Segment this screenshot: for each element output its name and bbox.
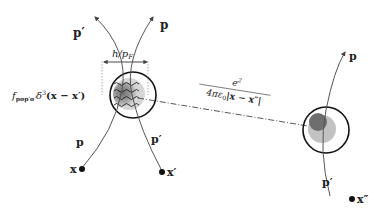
label-p-prime-bottom: p′ (151, 133, 162, 146)
label-x: x (70, 163, 77, 176)
label-exchange-term: fpσp′σ′δ3(x − x′) (11, 89, 85, 103)
label-x-prime: x′ (167, 166, 177, 179)
coulomb-denominator: 4πε0|x − x″| (204, 87, 261, 107)
label-p-prime-right: p′ (322, 176, 333, 189)
label-p-prime-top: p′ (73, 26, 85, 40)
label-p-bottom-left: p (76, 136, 84, 149)
label-x-double-prime: x″ (357, 193, 369, 206)
label-p-top: p (160, 18, 168, 32)
x-double-prime-dot (349, 196, 355, 202)
coulomb-numerator: e2 (232, 75, 243, 88)
x-prime-dot (159, 169, 165, 175)
label-p-right-top: p (349, 50, 357, 63)
x-dot (79, 166, 85, 172)
physics-diagram: p′ p h/pF fpσp′σ′δ3(x − x′) p p′ x x′ e2… (0, 0, 384, 213)
coulomb-fraction: e2 4πε0|x − x″| (197, 70, 272, 108)
coulomb-line (138, 98, 326, 129)
label-width: h/pF (112, 48, 134, 61)
